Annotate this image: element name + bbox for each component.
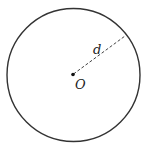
center-label: O: [75, 77, 86, 92]
segment-label: d: [93, 42, 101, 57]
center-point: [71, 73, 75, 77]
circle-diagram: d O: [0, 0, 148, 152]
